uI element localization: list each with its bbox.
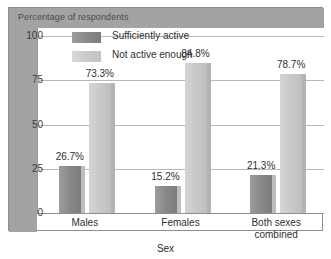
bar-value-label: 73.3% [80,68,120,79]
bar-face [250,175,272,213]
x-category-label-line: Both sexes [231,217,321,229]
bar-3d-edge [81,166,85,213]
bar [89,83,111,213]
x-category-label-line: combined [231,229,321,241]
x-category-label-line: Females [136,217,226,229]
legend-item-sufficiently-active: Sufficiently active [72,30,222,46]
x-category-label: Females [136,217,226,229]
bar-3d-edge [177,186,181,213]
axis-baseline [37,213,324,214]
x-category-label: Both sexescombined [231,217,321,241]
chart-legend: Sufficiently active Not active enough [72,30,222,68]
bar-value-label: 78.7% [271,59,311,70]
bar-value-label: 15.2% [146,171,186,182]
bar [59,166,81,213]
x-category-label: Males [40,217,130,229]
bar [185,63,207,213]
bar [280,74,302,213]
y-tick-label: 75 [9,74,43,85]
bar [250,175,272,213]
bar-3d-edge [302,74,306,213]
bar-value-label: 26.7% [50,151,90,162]
chart-title-band: Percentage of respondents [9,8,324,28]
bar-3d-edge [207,63,211,213]
bar-face [155,186,177,213]
legend-label-not-active-enough: Not active enough [112,49,193,60]
bar-3d-edge [111,83,115,213]
bar-3d-edge [272,175,276,213]
chart-title: Percentage of respondents [18,12,129,22]
legend-label-sufficiently-active: Sufficiently active [112,30,189,41]
x-category-label-line: Males [40,217,130,229]
y-tick-label: 50 [9,119,43,130]
legend-swatch-icon-not-active-enough [72,51,101,62]
legend-item-not-active-enough: Not active enough [72,49,222,65]
y-tick-label: 0 [9,207,43,218]
x-axis-title: Sex [0,243,331,254]
bar-value-label: 21.3% [241,160,281,171]
chart-figure: Percentage of respondents 26.7%73.3%15.2… [8,7,323,231]
bar-face [89,83,111,213]
bar-face [185,63,207,213]
bar-face [59,166,81,213]
bar-face [280,74,302,213]
y-tick-label: 100 [9,30,43,41]
y-tick-label: 25 [9,163,43,174]
bar [155,186,177,213]
y-axis-band [9,28,37,232]
legend-swatch-icon-sufficiently-active [72,32,101,43]
